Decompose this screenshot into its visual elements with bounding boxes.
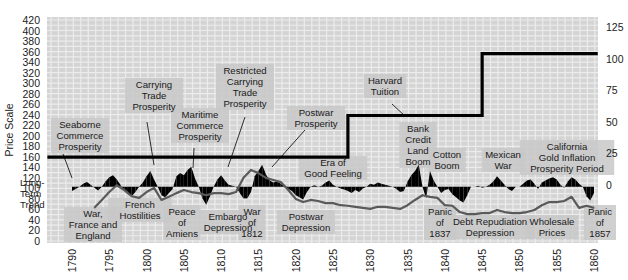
price-point [549, 201, 550, 202]
annotation-line: Land [407, 145, 428, 156]
left-tick-label: 20 [28, 224, 40, 236]
left-tick-label: 380 [22, 35, 40, 47]
left-tick-label: 280 [22, 88, 40, 100]
price-point [422, 195, 423, 196]
x-axis-ticks: 1790179518001805181018151820182518301835… [66, 249, 600, 273]
annotation-line: Gold Inflation [539, 152, 596, 163]
annotation-line: Prices [539, 227, 566, 238]
price-point [288, 189, 289, 190]
price-point [221, 193, 222, 194]
annotation-line: Panic [588, 206, 612, 217]
annotation-line: England [75, 230, 110, 241]
price-point [496, 209, 497, 210]
annotation-line: Prosperity [223, 98, 266, 109]
trend-segment [527, 179, 531, 186]
annotation-line: Carrying [136, 79, 172, 90]
annotation-postwar-prosperity: PostwarProsperity [294, 107, 337, 129]
price-point [400, 208, 401, 209]
x-tick-label: 1800 [141, 249, 153, 273]
price-point [198, 193, 199, 194]
left-tick-label: 180 [22, 140, 40, 152]
price-point [407, 205, 408, 206]
left-tick-label: 360 [22, 46, 40, 58]
left-tick-label: 120 [22, 172, 40, 184]
annotation-line: Prosperity [178, 131, 221, 142]
price-point [332, 203, 333, 204]
annotation-line: Maritime [182, 109, 219, 120]
right-tick-label: 0 [606, 179, 612, 191]
left-tick-label: 260 [22, 98, 40, 110]
annotation-line: French [125, 199, 155, 210]
left-tick-label: 60 [28, 203, 40, 215]
annotation-line: Postwar [299, 107, 334, 118]
left-tick-label: 80 [28, 193, 40, 205]
annotation-line: Credit [405, 134, 431, 145]
left-tick-label: 160 [22, 151, 40, 163]
annotation-line: Commerce [177, 120, 224, 131]
x-tick-label: 1840 [439, 249, 451, 273]
price-point [340, 205, 341, 206]
price-point [511, 213, 512, 214]
price-point [325, 203, 326, 204]
price-point [370, 208, 371, 209]
price-point [578, 207, 579, 208]
left-tick-label: 0 [34, 235, 40, 247]
annotation-line: California [547, 141, 588, 152]
x-tick-label: 1845 [476, 249, 488, 273]
x-tick-label: 1805 [178, 249, 190, 273]
annotation-line: of [248, 217, 256, 228]
price-point [161, 199, 162, 200]
price-point [280, 181, 281, 182]
price-point [258, 173, 259, 174]
price-point [586, 205, 587, 206]
annotation-line: Boom [405, 156, 430, 167]
annotation-line: Restricted [223, 65, 266, 76]
annotation-line: Depression [466, 227, 515, 238]
annotation-line: Prosperity [58, 141, 101, 152]
annotation-line: of [436, 217, 444, 228]
annotation-line: Postwar [289, 211, 324, 222]
trend-segment [188, 167, 192, 187]
annotation-line: War, [83, 208, 102, 219]
x-tick-label: 1835 [402, 249, 414, 273]
annotation-line: War [494, 160, 512, 171]
annotation-line: Prosperity [132, 101, 175, 112]
annotation-line: France and [69, 219, 118, 230]
annotation-line: War [243, 206, 261, 217]
annotation-line: Prosperity Period [530, 163, 604, 174]
x-tick-label: 1830 [364, 249, 376, 273]
price-point [191, 191, 192, 192]
left-tick-label: 400 [22, 25, 40, 37]
price-point [295, 198, 296, 199]
left-tick-label: 140 [22, 161, 40, 173]
right-tick-label: 125 [606, 21, 624, 33]
price-point [519, 213, 520, 214]
annotation-line: Depression [282, 222, 331, 233]
price-point [213, 193, 214, 194]
price-point [265, 177, 266, 178]
left-tick-label: 420 [22, 14, 40, 26]
x-tick-label: 1850 [513, 249, 525, 273]
price-point [504, 211, 505, 212]
annotation-postwar-depression: PostwarDepression [282, 211, 331, 233]
price-point [482, 213, 483, 214]
price-point [564, 200, 565, 201]
price-point [303, 201, 304, 202]
annotation-line: Bank [407, 123, 429, 134]
price-point [243, 177, 244, 178]
x-tick-label: 1795 [103, 249, 115, 273]
annotation-line: Hostilities [119, 210, 160, 221]
annotation-line: Commerce [57, 130, 104, 141]
annotation-french-hostilities: FrenchHostilities [119, 199, 160, 221]
annotation-line: 1812 [241, 228, 262, 239]
annotation-bank-credit: BankCreditLandBoom [405, 123, 431, 167]
price-point [124, 189, 125, 190]
annotation-seaborne: SeaborneCommerceProsperity [57, 119, 104, 152]
annotation-line: Boom [434, 160, 459, 171]
price-point [235, 191, 236, 192]
price-point [362, 207, 363, 208]
price-point [146, 191, 147, 192]
annotation-maritime: MaritimeCommerceProsperity [177, 109, 224, 142]
price-point [377, 206, 378, 207]
price-point [206, 195, 207, 196]
